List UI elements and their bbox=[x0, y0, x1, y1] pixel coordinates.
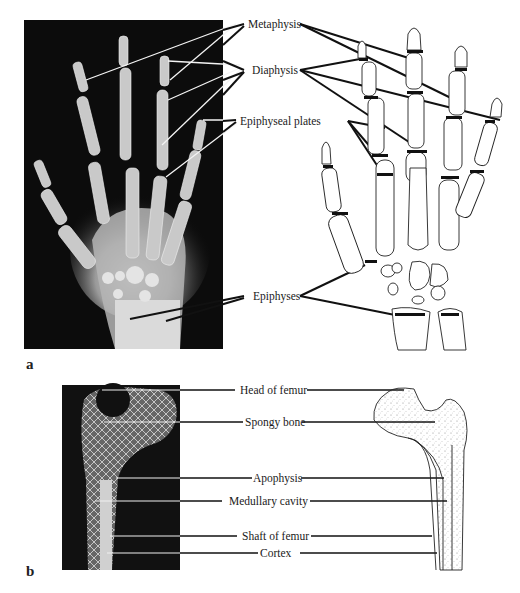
label-cortex: Cortex bbox=[260, 547, 291, 559]
femur-line-drawing bbox=[374, 388, 467, 570]
panel-letter-b: b bbox=[26, 563, 34, 580]
label-epiphyseal-plates: Epiphyseal plates bbox=[240, 115, 321, 127]
label-spongy-bone: Spongy bone bbox=[245, 416, 305, 428]
hand-xray-image bbox=[24, 20, 223, 349]
label-shaft-of-femur: Shaft of femur bbox=[242, 530, 309, 542]
label-epiphyses: Epiphyses bbox=[253, 290, 300, 302]
label-metaphysis: Metaphysis bbox=[248, 18, 301, 30]
label-apophysis: Apophysis bbox=[253, 472, 302, 484]
femur-xray-image bbox=[62, 383, 180, 570]
label-medullary-cavity: Medullary cavity bbox=[229, 495, 308, 507]
panel-letter-a: a bbox=[26, 356, 34, 373]
label-head-of-femur: Head of femur bbox=[240, 384, 307, 396]
hand-line-drawing bbox=[321, 28, 502, 350]
label-diaphysis: Diaphysis bbox=[252, 64, 298, 76]
